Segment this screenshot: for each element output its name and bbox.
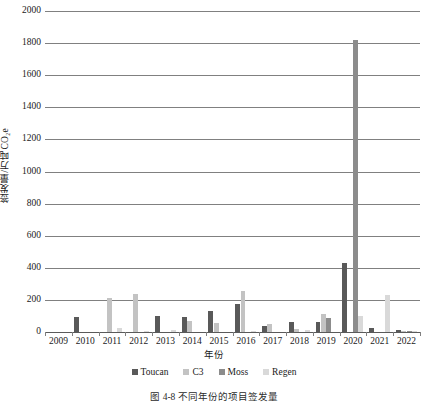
x-axis-tick-label: 2014 [183,334,202,348]
bar-group [316,11,337,332]
bar-group [128,11,149,332]
x-axis-tick-label: 2018 [290,334,309,348]
figure-container: 签发量/万吨CO₂e 02004006008001000120014001600… [0,0,428,404]
bar [241,291,246,332]
y-axis-tick-label: 800 [27,199,41,209]
x-axis-tick-label: 2011 [103,334,122,348]
figure-caption: 图 4-8 不同年份的项目签发量 [0,391,428,404]
x-axis-tick-label: 2010 [76,334,95,348]
bar [182,317,187,332]
x-axis-tick-label: 2017 [263,334,282,348]
y-axis-tick-label: 1200 [22,135,41,145]
bar [321,314,326,332]
bar-group [74,11,95,332]
x-axis-title: 年份 [0,349,428,361]
legend-label: Moss [228,367,249,377]
bar [267,324,272,332]
x-axis-tick-label: 2020 [344,334,363,348]
y-axis-title-text: 签发量/万吨CO₂e [1,128,11,203]
y-axis-tick-label: 400 [27,263,41,273]
bar [289,322,294,332]
y-axis-tick-label: 1800 [22,38,41,48]
bar [208,311,213,332]
bar-series-container [45,11,420,332]
bar [316,322,321,332]
bar [214,323,219,332]
bar-group [342,11,363,332]
y-axis-tick-label: 0 [36,327,41,337]
y-axis-tick-label: 600 [27,231,41,241]
y-axis-tick-label: 1600 [22,70,41,80]
bar [235,304,240,332]
bar [326,318,331,332]
bar [342,263,347,332]
legend-item: Moss [219,367,249,377]
x-axis-tick-label: 2022 [397,334,416,348]
y-axis-tick-label: 1400 [22,103,41,113]
x-axis-tick-labels: 2009201020112012201320142015201620172018… [45,334,420,348]
x-axis-tick-label: 2021 [370,334,389,348]
bar [187,321,192,332]
plot-area: 0200400600800100012001400160018002000 [45,11,420,332]
legend-swatch-icon [132,369,138,375]
bar [107,298,112,332]
bar [358,316,363,332]
legend-item: Toucan [132,367,169,377]
x-axis-tick-label: 2012 [129,334,148,348]
x-axis-tick-label: 2019 [317,334,336,348]
legend-swatch-icon [183,369,189,375]
bar [385,295,390,332]
bar-group [48,11,69,332]
chart-legend: ToucanC3MossRegen [0,367,428,377]
bar-group [101,11,122,332]
y-axis-tick-label: 1000 [22,167,41,177]
bar-group [396,11,417,332]
y-axis-tick-label: 2000 [22,6,41,16]
x-axis-title-text: 年份 [204,350,224,360]
x-axis-tick-label: 2015 [210,334,229,348]
legend-label: Toucan [141,367,169,377]
y-axis-title: 签发量/万吨CO₂e [0,0,13,332]
figure-caption-text: 图 4-8 不同年份的项目签发量 [150,392,277,402]
bar-group [289,11,310,332]
bar [133,294,138,332]
bar-group [369,11,390,332]
x-axis-tick-label: 2013 [156,334,175,348]
bar-group [235,11,256,332]
legend-item: C3 [183,367,203,377]
bar-group [208,11,229,332]
x-axis-tick-label: 2009 [49,334,68,348]
x-axis-tick-label: 2016 [236,334,255,348]
bar [353,40,358,332]
y-axis-tick-label: 200 [27,295,41,305]
bar-group [155,11,176,332]
legend-label: C3 [192,367,203,377]
bar [155,316,160,332]
legend-item: Regen [263,367,296,377]
bar-group [262,11,283,332]
bar-group [182,11,203,332]
x-axis-tick-mark [420,332,421,336]
legend-swatch-icon [263,369,269,375]
legend-swatch-icon [219,369,225,375]
bar [74,317,79,332]
legend-label: Regen [272,367,296,377]
